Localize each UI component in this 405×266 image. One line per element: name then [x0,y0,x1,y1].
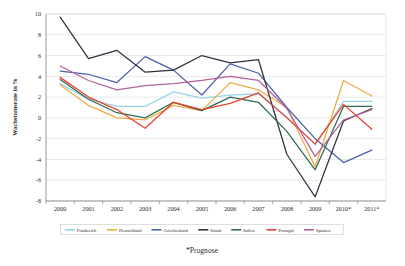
x-tick-label: 2011* [364,205,379,212]
y-tick-label: 4 [38,73,41,80]
x-tick-label: 2001 [82,205,94,212]
y-tick-label: 10 [35,10,41,17]
y-axis-tick-labels: 1086420-2-4-6-8 [35,10,41,204]
chart-container: 1086420-2-4-6-8 200020012002200320042005… [0,0,405,266]
legend-label-deutschland: Deutschland [119,228,142,233]
legend-label-spanien: Spanien [316,228,331,233]
legend-label-griechenland: Griechenland [163,228,188,233]
y-axis-title: Wachstumsrate in % [11,78,18,136]
x-tick-label: 2006 [224,205,236,212]
chart-footnote: *Prognose [186,246,219,255]
x-tick-label: 2005 [196,205,208,212]
x-tick-label: 2009 [309,205,321,212]
line-chart: 1086420-2-4-6-8 200020012002200320042005… [0,0,405,266]
footnote-label: *Prognose [186,246,219,255]
y-tick-label: 2 [38,93,41,100]
legend-label-italien: Italien [243,228,255,233]
legend-label-irland: Irland [210,228,221,233]
chart-legend: FrankreichDeutschlandGriechenlandIrlandI… [61,225,344,235]
x-tick-label: 2007 [252,205,264,212]
y-tick-label: -8 [36,197,41,204]
legend-label-frankreich: Frankreich [77,228,97,233]
y-axis-title-label: Wachstumsrate in % [11,78,18,136]
y-tick-label: -4 [36,156,41,163]
x-tick-label: 2000 [54,205,66,212]
legend-label-portugal: Portugal [278,228,294,233]
x-tick-label: 2010* [336,205,351,212]
x-tick-label: 2004 [167,205,179,212]
x-tick-label: 2003 [139,205,151,212]
y-tick-label: 8 [38,31,41,38]
y-tick-label: 0 [38,114,41,121]
y-tick-label: -2 [36,135,41,142]
y-tick-label: -6 [36,176,41,183]
x-tick-label: 2008 [281,205,293,212]
x-axis-tick-labels: 2000200120022003200420052006200720082009… [54,205,379,212]
x-tick-label: 2002 [111,205,123,212]
y-tick-label: 6 [38,52,41,59]
